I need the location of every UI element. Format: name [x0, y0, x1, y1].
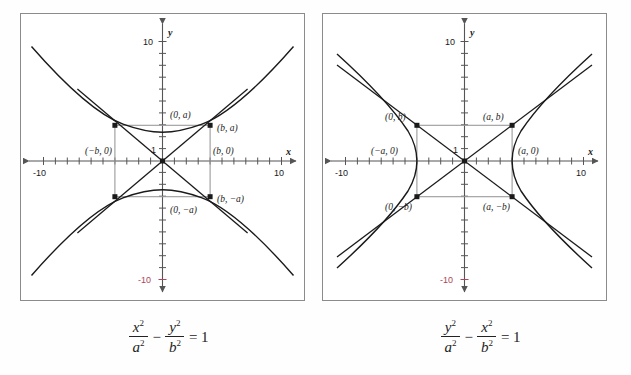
equation-right: y2 a2 − x2 b2 = 1 — [330, 318, 630, 355]
marker-0-minus-b — [414, 194, 419, 199]
axes-group-right — [331, 24, 598, 292]
point-label-corner-bottom-right: (a, −b) — [483, 202, 510, 213]
marker-a-minus-b — [510, 194, 515, 199]
numerator-exponent: 2 — [139, 318, 144, 328]
equation-right-expression: y2 a2 − x2 b2 = 1 — [439, 319, 520, 355]
y-tick-label-negative: -10 — [138, 275, 151, 285]
x-tick-label-negative: -10 — [335, 168, 348, 178]
point-label-corner-bottom-left: (0, −b) — [385, 202, 412, 213]
fraction-denominator: b2 — [165, 337, 185, 355]
fraction-second-right: x2 b2 — [477, 319, 497, 355]
point-label-corner-top-right: (a, b) — [483, 112, 504, 123]
denominator-exponent: 2 — [452, 338, 457, 348]
point-label-vertex-right: (a, 0) — [518, 146, 539, 157]
denominator-variable: a — [132, 339, 140, 355]
fraction-denominator: a2 — [128, 337, 148, 355]
y-axis-label: y — [469, 27, 475, 38]
denominator-variable: a — [444, 339, 452, 355]
fraction-numerator: x2 — [129, 319, 148, 337]
fraction-denominator: a2 — [440, 337, 460, 355]
denominator-exponent: 2 — [488, 338, 493, 348]
y-tick-label-one: 1 — [453, 145, 458, 155]
point-label-vertex-left: (−a, 0) — [371, 146, 398, 157]
equation-right-hand-side: = 1 — [189, 330, 209, 345]
fraction-numerator: y2 — [441, 319, 460, 337]
fraction-first-right: y2 a2 — [440, 319, 460, 355]
point-label-point-left: (−b, 0) — [85, 146, 112, 157]
marker-origin — [160, 159, 165, 164]
point-label-vertex-bottom: (0, −a) — [170, 205, 197, 216]
point-label-point-right: (b, 0) — [213, 146, 234, 157]
x-tick-label-positive: 10 — [576, 168, 586, 178]
marker-origin — [462, 159, 467, 164]
denominator-exponent: 2 — [176, 338, 181, 348]
equation-left: x2 a2 − y2 b2 = 1 — [18, 318, 318, 355]
chart-panel-left: x y -10 10 10 1 -10 (0, a) (b, a) (−b, 0… — [20, 13, 305, 301]
point-label-vertex-top: (0, a) — [170, 110, 191, 121]
fraction-denominator: b2 — [477, 337, 497, 355]
fraction-first-left: x2 a2 — [128, 319, 148, 355]
denominator-exponent: 2 — [140, 338, 145, 348]
x-axis-label: x — [285, 146, 291, 157]
numerator-exponent: 2 — [176, 318, 181, 328]
y-tick-label-one: 1 — [151, 145, 156, 155]
y-tick-label-negative: -10 — [440, 275, 453, 285]
fraction-second-left: y2 b2 — [165, 319, 185, 355]
marker-b-minus-a — [208, 194, 213, 199]
x-tick-label-positive: 10 — [274, 168, 284, 178]
hyperbola-figure: x y -10 10 10 1 -10 (0, a) (b, a) (−b, 0… — [0, 0, 631, 375]
numerator-variable: y — [169, 319, 176, 335]
y-tick-label-positive: 10 — [143, 37, 153, 47]
marker-minus-b-a — [112, 123, 117, 128]
fraction-numerator: y2 — [165, 319, 184, 337]
marker-a-b — [510, 123, 515, 128]
numerator-exponent: 2 — [488, 318, 493, 328]
y-axis-label: y — [167, 27, 173, 38]
point-label-corner-top-right: (b, a) — [217, 123, 238, 134]
marker-minus-b-minus-a — [112, 194, 117, 199]
point-label-corner-top-left: (0, b) — [385, 112, 406, 123]
numerator-variable: x — [481, 319, 488, 335]
marker-0-b — [414, 123, 419, 128]
y-tick-label-positive: 10 — [445, 37, 455, 47]
hyperbola-chart-vertical: x y -10 10 10 1 -10 (0, a) (b, a) (−b, 0… — [21, 14, 304, 300]
equation-left-expression: x2 a2 − y2 b2 = 1 — [127, 319, 208, 355]
hyperbola-chart-horizontal: x y -10 10 10 1 -10 (0, b) (a, b) (−a, 0… — [323, 14, 606, 300]
equation-operator: − — [464, 330, 472, 345]
point-label-corner-bottom-right: (b, −a) — [217, 194, 244, 205]
x-tick-label-negative: -10 — [33, 168, 46, 178]
equation-right-hand-side: = 1 — [501, 330, 521, 345]
x-axis-label: x — [587, 146, 593, 157]
equation-operator: − — [152, 330, 160, 345]
fraction-numerator: x2 — [477, 319, 496, 337]
axes-group-left — [29, 24, 296, 292]
numerator-exponent: 2 — [451, 318, 456, 328]
equations-row: x2 a2 − y2 b2 = 1 y2 a2 − x2 — [0, 318, 631, 368]
marker-b-a — [208, 123, 213, 128]
chart-panel-right: x y -10 10 10 1 -10 (0, b) (a, b) (−a, 0… — [322, 13, 607, 301]
